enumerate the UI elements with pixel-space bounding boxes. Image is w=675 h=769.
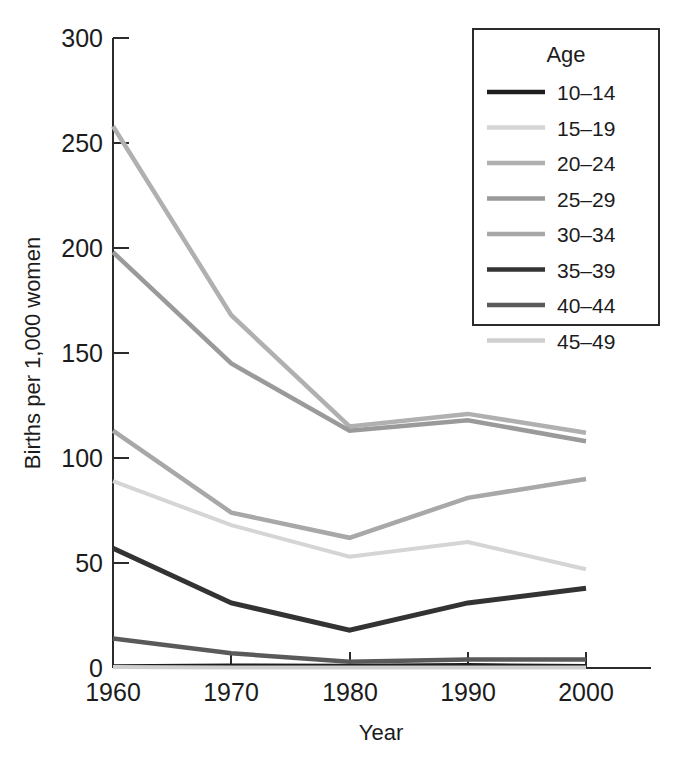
y-tick-label: 200 — [61, 234, 103, 262]
legend-title: Age — [546, 42, 585, 67]
legend-item-label: 45–49 — [557, 330, 615, 353]
legend-item-label: 35–39 — [557, 259, 615, 282]
legend-item-label: 20–24 — [557, 152, 616, 175]
legend-item-label: 25–29 — [557, 188, 615, 211]
x-tick-label: 1970 — [203, 678, 259, 706]
y-tick-labels: 300 250 200 150 100 50 0 — [61, 24, 103, 682]
y-tick-label: 250 — [61, 129, 103, 157]
x-tick-label: 1960 — [85, 678, 141, 706]
y-tick-label: 50 — [75, 549, 103, 577]
x-tick-labels: 1960 1970 1980 1990 2000 — [85, 678, 614, 706]
line-chart-canvas: 300 250 200 150 100 50 0 1960 1970 1980 … — [0, 0, 675, 769]
y-tick-label: 100 — [61, 444, 103, 472]
legend-item-label: 40–44 — [557, 294, 616, 317]
chart-figure: 300 250 200 150 100 50 0 1960 1970 1980 … — [0, 0, 675, 769]
legend-item-label: 15–19 — [557, 117, 615, 140]
x-tick-label: 2000 — [558, 678, 614, 706]
x-tick-label: 1980 — [322, 678, 378, 706]
y-axis-title: Births per 1,000 women — [20, 237, 45, 469]
series-line-45-49 — [113, 667, 586, 668]
legend-item[interactable]: 45–49 — [487, 330, 615, 353]
legend-item-label: 10–14 — [557, 81, 616, 104]
legend-item-label: 30–34 — [557, 223, 616, 246]
legend: Age 10–1415–1920–2425–2930–3435–3940–444… — [473, 29, 659, 353]
series-line-15-19 — [113, 481, 586, 569]
y-tick-label: 300 — [61, 24, 103, 52]
x-tick-label: 1990 — [440, 678, 496, 706]
series-line-30-34 — [113, 431, 586, 538]
x-axis-title: Year — [359, 720, 403, 745]
series-line-35-39 — [113, 548, 586, 630]
y-tick-label: 150 — [61, 339, 103, 367]
